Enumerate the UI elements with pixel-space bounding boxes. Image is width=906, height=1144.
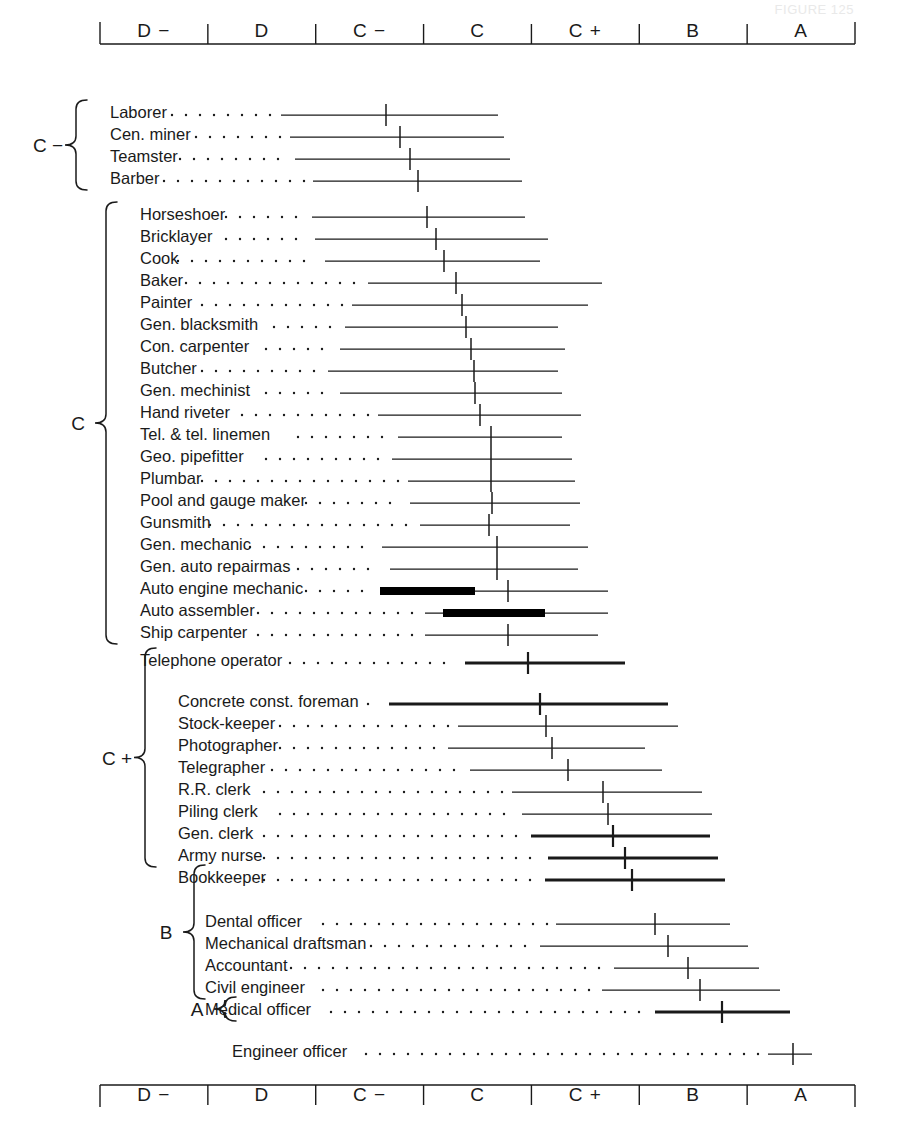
leader-dot (293, 813, 295, 815)
leader-dot (253, 238, 255, 240)
leader-dot (363, 747, 365, 749)
leader-dot (440, 945, 442, 947)
leader-dot (193, 158, 195, 160)
leader-dot (470, 1011, 472, 1013)
leader-dots (257, 634, 413, 636)
leader-dot (519, 1053, 521, 1055)
leader-dot (263, 158, 265, 160)
leader-dot (596, 1011, 598, 1013)
leader-dot (205, 180, 207, 182)
axis-category-label: A (794, 1084, 808, 1105)
leader-dot (687, 1053, 689, 1055)
chart-row: Bricklayer (140, 227, 548, 251)
leader-dot (333, 857, 335, 859)
figure-root: FIGURE 125 D −DC −CC +BA D −DC −CC +BA C… (0, 0, 906, 1144)
leader-dot (397, 634, 399, 636)
leader-dot (317, 662, 319, 664)
leader-dot (406, 923, 408, 925)
chart-row: Baker (140, 271, 602, 295)
leader-dot (191, 260, 193, 262)
leader-dot (417, 879, 419, 881)
row-label: Hand riveter (140, 403, 230, 421)
leader-dot (305, 857, 307, 859)
leader-dot (363, 458, 365, 460)
leader-dot (249, 158, 251, 160)
leader-dot (307, 524, 309, 526)
leader-dot (313, 612, 315, 614)
leader-dot (333, 879, 335, 881)
leader-dot (353, 436, 355, 438)
leader-dot (375, 857, 377, 859)
leader-dot (403, 835, 405, 837)
leader-dot (247, 260, 249, 262)
chart-row: Geo. pipefitter (140, 447, 572, 471)
chart-row: Ship carpenter (140, 623, 598, 647)
leader-dot (729, 1053, 731, 1055)
leader-dot (299, 480, 301, 482)
leader-dot (291, 879, 293, 881)
leader-dot (297, 436, 299, 438)
leader-dot (347, 835, 349, 837)
leader-dot (321, 458, 323, 460)
leader-dot (430, 967, 432, 969)
leader-dot (273, 326, 275, 328)
leader-dot (360, 967, 362, 969)
leader-dot (439, 769, 441, 771)
chart-row: Gunsmith (140, 513, 570, 537)
leader-dot (425, 769, 427, 771)
leader-dot (389, 502, 391, 504)
leader-dot (219, 180, 221, 182)
leader-dot (383, 612, 385, 614)
leader-dot (407, 1053, 409, 1055)
row-label: Gen. mechanic (140, 535, 251, 553)
leader-dot (293, 725, 295, 727)
leader-dot (456, 1011, 458, 1013)
chart-row: Telegrapher (178, 758, 662, 782)
leader-dot (341, 304, 343, 306)
row-label: Ship carpenter (140, 623, 248, 641)
leader-dot (568, 1011, 570, 1013)
leader-dots (330, 1011, 640, 1013)
chart-row: Medical officer (205, 1000, 790, 1024)
leader-dot (349, 747, 351, 749)
leader-dot (347, 590, 349, 592)
leader-dot (391, 813, 393, 815)
leader-dot (265, 524, 267, 526)
leader-dot (378, 989, 380, 991)
leader-dots (171, 114, 271, 116)
row-label: Army nurse (178, 846, 262, 864)
axis-category-label: C − (353, 1084, 386, 1105)
emphasis-block (443, 609, 545, 617)
leader-dot (476, 989, 478, 991)
leader-dot (249, 546, 251, 548)
leader-dot (185, 282, 187, 284)
leader-dot (411, 612, 413, 614)
leader-dot (503, 813, 505, 815)
leader-dot (347, 857, 349, 859)
leader-dot (285, 769, 287, 771)
leader-dot (547, 1053, 549, 1055)
leader-dots (271, 769, 455, 771)
leader-dot (349, 813, 351, 815)
leader-dot (434, 923, 436, 925)
leader-dot (433, 747, 435, 749)
leader-dots (177, 260, 305, 262)
leader-dot (293, 348, 295, 350)
leader-dots (322, 923, 548, 925)
leader-dot (297, 568, 299, 570)
leader-dot (263, 546, 265, 548)
leader-dot (321, 725, 323, 727)
leader-dot (518, 989, 520, 991)
chart-row: Barber (110, 169, 522, 193)
leader-dots (225, 238, 297, 240)
leader-dot (420, 923, 422, 925)
chart-row: Hand riveter (140, 403, 581, 427)
leader-dot (335, 458, 337, 460)
leader-dot (403, 791, 405, 793)
leader-dot (341, 769, 343, 771)
leader-dot (279, 813, 281, 815)
axis-category-label: C + (569, 1084, 602, 1105)
leader-dot (482, 945, 484, 947)
axis-top: D −DC −CC +BA (100, 20, 855, 44)
chart-row: Gen. mechinist (140, 381, 562, 405)
